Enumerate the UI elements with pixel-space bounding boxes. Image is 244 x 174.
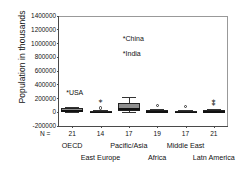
y-tick-label: 1400000 [0, 12, 56, 19]
annotation-label: *China [123, 35, 144, 42]
x-axis-line [58, 126, 228, 127]
category-label: Africa [148, 153, 166, 162]
median-line [203, 111, 225, 113]
n-value-label: 19 [153, 130, 160, 137]
category-label: Latn America [193, 153, 235, 162]
x-tick-mark [157, 126, 158, 128]
y-tick-mark [57, 57, 59, 58]
y-tick-mark [57, 98, 59, 99]
x-tick-mark [72, 126, 73, 128]
extreme-outlier-marker: ∗ [98, 99, 103, 104]
y-tick-mark [57, 29, 59, 30]
annotation-label: *India [123, 50, 141, 57]
category-label: Middle East [167, 141, 205, 150]
n-value-label: 21 [68, 130, 75, 137]
whisker-cap-lower [122, 112, 137, 113]
whisker-cap-upper [122, 97, 137, 98]
category-label: Pacific/Asia [110, 141, 147, 150]
n-value-label: 21 [210, 130, 217, 137]
extreme-outlier-marker: ∗ [211, 99, 216, 104]
boxplot-chart: Population in thousands 1400000120000010… [0, 0, 244, 174]
y-tick-mark [57, 43, 59, 44]
median-line [175, 112, 197, 114]
y-tick-label: 1000000 [0, 40, 56, 47]
category-label: East Europe [81, 153, 121, 162]
y-tick-mark [57, 112, 59, 113]
y-tick-mark [57, 84, 59, 85]
whisker-cap-lower [65, 112, 80, 113]
y-tick-label: 200000 [0, 95, 56, 102]
median-line [90, 112, 112, 114]
x-tick-mark [186, 126, 187, 128]
y-tick-label: 1200000 [0, 26, 56, 33]
y-tick-mark [57, 126, 59, 127]
y-tick-label: 400000 [0, 81, 56, 88]
median-line [118, 108, 140, 110]
y-tick-mark [57, 71, 59, 72]
n-value-label: 17 [125, 130, 132, 137]
median-line [146, 111, 168, 113]
category-label: OECD [62, 141, 83, 150]
x-tick-mark [101, 126, 102, 128]
y-tick-label: -200000 [0, 122, 56, 129]
y-tick-label: 800000 [0, 53, 56, 60]
x-tick-mark [129, 126, 130, 128]
outlier-point [99, 106, 102, 109]
annotation-label: *USA [66, 89, 83, 96]
n-prefix-label: N = [40, 130, 50, 137]
n-value-label: 14 [97, 130, 104, 137]
y-tick-label: 0 [0, 108, 56, 115]
y-tick-label: 600000 [0, 67, 56, 74]
median-line [61, 110, 83, 112]
x-tick-mark [214, 126, 215, 128]
y-tick-mark [57, 16, 59, 17]
n-value-label: 17 [182, 130, 189, 137]
